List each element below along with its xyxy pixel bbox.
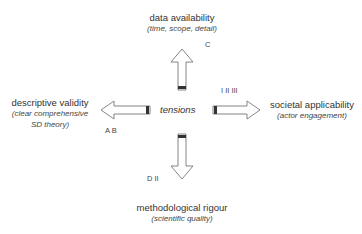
right-subtitle: (actor engagement)	[264, 110, 360, 121]
arrow-right-icon	[213, 101, 260, 119]
left-node: descriptive validity (clear comprehensiv…	[2, 97, 98, 130]
arrow-up-icon	[171, 49, 193, 90]
right-codes: I II III	[221, 86, 238, 95]
right-title: societal applicability	[264, 99, 360, 110]
left-title: descriptive validity	[2, 97, 98, 108]
top-node: data availability (time, scope, detail)	[132, 12, 232, 34]
left-subtitle-line1: (clear comprehensive	[2, 108, 98, 119]
bottom-subtitle: (scientific quality)	[124, 213, 240, 224]
right-node: societal applicability (actor engagement…	[264, 99, 360, 121]
center-label: tensions	[160, 104, 195, 115]
arrow-down-icon	[171, 134, 193, 179]
left-subtitle-line2: SD theory)	[2, 119, 98, 130]
top-title: data availability	[132, 12, 232, 23]
bottom-node: methodological rigour (scientific qualit…	[124, 202, 240, 224]
top-codes: C	[205, 40, 210, 49]
bottom-codes: D II	[147, 174, 159, 183]
top-subtitle: (time, scope, detail)	[132, 23, 232, 34]
arrow-left-icon	[101, 101, 150, 119]
bottom-title: methodological rigour	[124, 202, 240, 213]
left-codes: A B	[105, 126, 117, 135]
